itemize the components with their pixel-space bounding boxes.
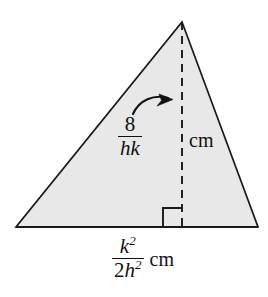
- base-denominator-variable: h: [125, 258, 136, 282]
- base-fraction: k2 2h2: [112, 236, 144, 281]
- base-unit-label: cm: [150, 249, 174, 269]
- base-denominator-coefficient: 2: [114, 258, 125, 282]
- base-denominator: 2h2: [112, 258, 144, 281]
- height-unit-label: cm: [189, 130, 213, 150]
- height-denominator: hk: [118, 136, 142, 159]
- height-fraction: 8 hk: [118, 114, 142, 159]
- base-numerator-exponent: 2: [129, 233, 136, 248]
- height-numerator: 8: [118, 114, 142, 136]
- base-measure-label: k2 2h2 cm: [112, 236, 174, 281]
- base-numerator-variable: k: [120, 234, 129, 258]
- base-denominator-exponent: 2: [135, 257, 142, 272]
- height-measure-label: 8 hk: [118, 114, 142, 159]
- figure-container: 8 hk cm k2 2h2 cm: [0, 0, 268, 297]
- base-numerator: k2: [112, 236, 144, 258]
